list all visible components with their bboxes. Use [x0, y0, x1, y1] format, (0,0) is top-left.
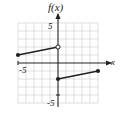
closed-endpoint-dot — [16, 53, 20, 57]
y-tick-label-negative-five: -5 — [47, 99, 55, 108]
x-tick-label-negative-five: -5 — [19, 66, 27, 75]
piecewise-function-graph: f(x) x -5 5 -5 — [0, 0, 121, 116]
open-endpoint-circle — [56, 45, 60, 49]
y-axis-arrowhead — [55, 13, 60, 19]
closed-endpoint-dot — [96, 69, 100, 73]
y-axis-label: f(x) — [48, 2, 63, 13]
graph-canvas — [0, 0, 121, 116]
closed-endpoint-dot — [56, 77, 60, 81]
y-tick-label-five: 5 — [48, 22, 53, 31]
x-axis-label: x — [111, 58, 115, 67]
